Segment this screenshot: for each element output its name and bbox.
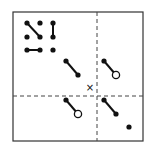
grid-dot [37,34,42,39]
grid-dot [50,20,55,25]
lone-dot [126,124,131,129]
segment-filled-end [75,72,80,77]
grid-dot [24,34,29,39]
lower-right-segment [104,100,116,114]
segment-filled-end [113,111,118,116]
grid-dot [37,47,42,52]
diagram-canvas: × [0,0,147,147]
segment-start-dot [101,97,106,102]
segment-start-dot [101,58,106,63]
grid-dot [24,47,29,52]
dot-grid [24,20,55,52]
upper-left-segment [66,61,78,75]
grid-dot [50,47,55,52]
grid-dot [50,34,55,39]
grid-link [27,23,40,37]
segment-start-dot [63,97,68,102]
segment-start-dot [63,58,68,63]
center-cross-marker: × [86,82,94,93]
grid-dot [24,20,29,25]
segment-open-end [112,71,119,78]
segment-open-end [74,110,81,117]
grid-dot [37,20,42,25]
